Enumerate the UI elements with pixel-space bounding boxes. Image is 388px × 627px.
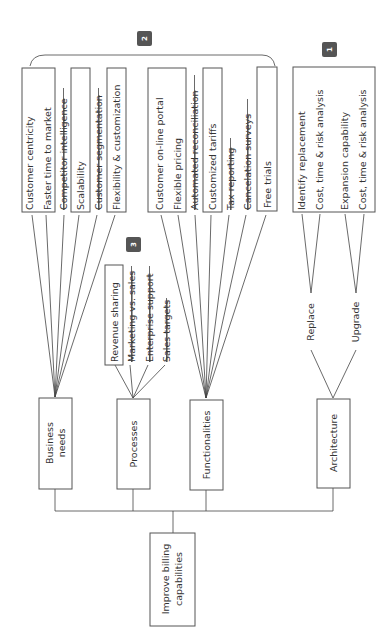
badge-1: 1 bbox=[322, 42, 337, 57]
option-upgrade: Upgrade bbox=[350, 302, 361, 343]
option-replace: Replace bbox=[305, 303, 316, 341]
item-cost-time-risk-1: Cost, time & risk analysis bbox=[314, 89, 325, 210]
architecture-items: Identify replacement Cost, time & risk a… bbox=[293, 67, 375, 212]
item-flexible-pricing: Flexible pricing bbox=[172, 138, 183, 210]
branch-architecture[interactable]: Architecture bbox=[317, 399, 350, 488]
branch-processes[interactable]: Processes bbox=[117, 399, 150, 489]
branch-business-needs[interactable]: Business needs bbox=[39, 398, 72, 489]
item-cost-time-risk-2: Cost, time & risk analysis bbox=[357, 89, 368, 210]
processes-items: Revenue sharing Marketing vs. sales Ente… bbox=[105, 265, 172, 365]
item-expansion-capability: Expansion capability bbox=[339, 111, 350, 210]
svg-text:2: 2 bbox=[141, 36, 149, 41]
functionalities-items: Customer on-line portal Flexible pricing… bbox=[148, 67, 277, 212]
branch-functionalities[interactable]: Functionalities bbox=[190, 400, 223, 490]
root-label-line2: capabilities bbox=[173, 552, 184, 606]
item-flexibility-customization: Flexibility & customization bbox=[111, 85, 122, 210]
branch-label: Processes bbox=[128, 421, 139, 468]
branch-label-line1: Business bbox=[44, 422, 55, 464]
item-customized-tariffs: Customized tariffs bbox=[207, 123, 218, 210]
item-identify-replacement: Identify replacement bbox=[296, 111, 307, 210]
svg-text:3: 3 bbox=[130, 242, 138, 247]
item-faster-time-to-market: Faster time to market bbox=[42, 107, 53, 210]
item-customer-centricity: Customer centricity bbox=[24, 116, 35, 210]
root-node[interactable]: Improve billing capabilities bbox=[150, 533, 195, 626]
processes-fan bbox=[115, 365, 165, 398]
functionalities-fan bbox=[161, 215, 266, 398]
svg-text:1: 1 bbox=[326, 47, 334, 52]
item-scalability: Scalability bbox=[75, 161, 86, 210]
item-customer-online-portal: Customer on-line portal bbox=[154, 97, 165, 210]
item-revenue-sharing: Revenue sharing bbox=[109, 282, 120, 362]
business-needs-items: Customer centricity Faster time to marke… bbox=[22, 68, 126, 212]
business-needs-fan bbox=[32, 215, 115, 397]
branch-label: Functionalities bbox=[201, 411, 212, 480]
root-label-line1: Improve billing bbox=[160, 544, 171, 615]
mind-map-diagram: Improve billing capabilities Business ne… bbox=[0, 0, 388, 627]
branch-label: Architecture bbox=[328, 414, 339, 472]
badge-2: 2 bbox=[137, 31, 152, 46]
item-free-trials: Free trials bbox=[262, 161, 273, 208]
badge-3: 3 bbox=[126, 237, 141, 252]
group-bracket bbox=[30, 55, 275, 66]
branch-label-line2: needs bbox=[56, 429, 67, 458]
